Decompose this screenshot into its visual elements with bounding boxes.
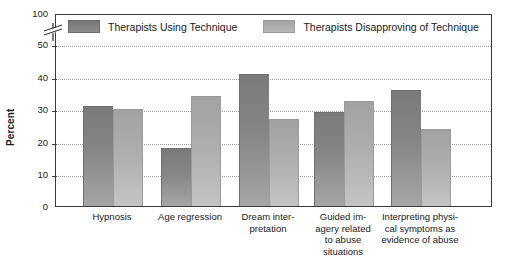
category-label-4: Interpreting physi-cal symptoms aseviden… (361, 211, 479, 246)
legend-swatch-dark (68, 20, 100, 33)
y-tick-0: 0 (24, 202, 48, 212)
bar-using-3 (314, 112, 344, 206)
bar-disapproving-2 (269, 119, 299, 206)
category-label-line: cal symptoms as (361, 223, 479, 235)
category-label-line: evidence of abuse (361, 234, 479, 246)
y-tick-30: 30 (24, 105, 48, 115)
legend-label-1: Therapists Disapproving of Technique (303, 21, 479, 33)
bar-disapproving-3 (344, 101, 374, 206)
x-axis-category-labels: HypnosisAge regressionDream inter-pretat… (55, 211, 492, 265)
y-tick-100: 100 (24, 9, 48, 19)
legend-swatch-light (263, 20, 295, 33)
bar-disapproving-1 (191, 96, 221, 206)
bar-using-2 (239, 74, 269, 206)
bar-using-0 (83, 106, 113, 206)
y-tick-40: 40 (24, 73, 48, 83)
bar-using-4 (391, 90, 421, 206)
bar-disapproving-0 (113, 109, 143, 206)
bars-layer (56, 15, 491, 206)
category-label-line: situations (297, 246, 389, 258)
bar-using-1 (161, 148, 191, 206)
axis-break-icon (42, 23, 64, 41)
legend-item-0: Therapists Using Technique (68, 20, 237, 33)
y-tick-10: 10 (24, 170, 48, 180)
legend-label-0: Therapists Using Technique (108, 21, 237, 33)
y-tick-20: 20 (24, 138, 48, 148)
legend-item-1: Therapists Disapproving of Technique (263, 20, 479, 33)
category-label-line: Interpreting physi- (361, 211, 479, 223)
y-tick-50: 50 (24, 40, 48, 50)
bar-chart: Percent 10050403020100 Therapists Using … (0, 0, 506, 265)
chart-legend: Therapists Using TechniqueTherapists Dis… (68, 20, 479, 33)
bar-disapproving-4 (421, 129, 451, 206)
plot-area (55, 14, 492, 207)
